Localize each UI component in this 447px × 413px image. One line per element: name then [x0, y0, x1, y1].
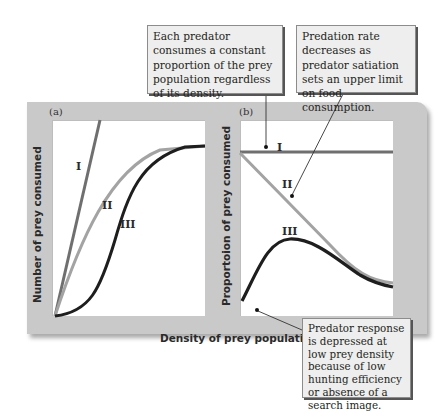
- curve-label-b-1: I: [277, 141, 282, 154]
- leader-dot-type1: [264, 145, 268, 149]
- panel-b-curves: I II III: [240, 141, 393, 301]
- curve-b-type2: [240, 153, 393, 283]
- panel-a-curves: I II III: [55, 120, 205, 316]
- curve-label-a-2: II: [102, 199, 112, 212]
- leader-dot-type2: [290, 194, 294, 198]
- curve-b-type3: [242, 239, 393, 301]
- curve-label-b-2: II: [282, 178, 292, 191]
- curve-label-a-3: III: [120, 218, 135, 231]
- callout-type2: Predation rate decreases as predator sat…: [296, 25, 416, 93]
- callout-type1: Each predator consumes a constant propor…: [147, 25, 283, 94]
- curve-label-b-3: III: [282, 225, 297, 238]
- callout-type3: Predator response is depressed at low pr…: [302, 318, 411, 398]
- leader-dot-type3: [255, 308, 259, 312]
- curve-label-a-1: I: [76, 160, 81, 173]
